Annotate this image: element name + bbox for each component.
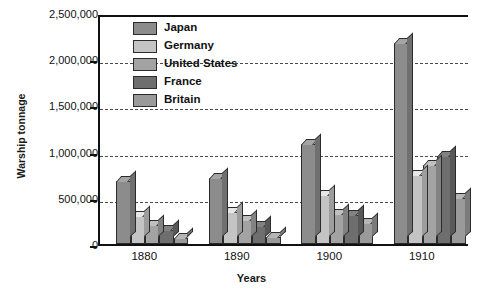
y-tick-label: 1,000,000: [12, 148, 98, 159]
y-tick-mark: [90, 107, 97, 109]
bar-side-face: [422, 164, 428, 237]
x-tick-label-1890: 1890: [187, 250, 287, 262]
legend-swatch: [133, 22, 157, 35]
bar-side-face: [450, 146, 456, 237]
bar-side-face: [187, 227, 193, 237]
y-tick-label: 2,500,000: [12, 9, 98, 20]
x-tick-label-1900: 1900: [279, 250, 379, 262]
bar-side-face: [372, 212, 378, 237]
bar-side-face: [315, 134, 321, 237]
bar-britain-1880: [174, 238, 188, 244]
bar-side-face: [329, 185, 335, 237]
y-tick-mark: [90, 200, 97, 202]
warship-tonnage-bar-chart: Warship tonnage 0500,0001,000,0001,500,0…: [0, 0, 503, 296]
y-tick-label: 0: [12, 240, 98, 251]
legend-swatch: [133, 76, 157, 89]
legend-item-germany: Germany: [133, 38, 238, 54]
bar-side-face: [407, 32, 413, 237]
legend-item-britain: Britain: [133, 92, 238, 108]
legend-label: Britain: [164, 94, 200, 106]
bar-side-face: [465, 187, 471, 237]
y-tick-label: 1,500,000: [12, 101, 98, 112]
chart-legend: JapanGermanyUnited StatesFranceBritain: [133, 20, 238, 108]
bar-side-face: [237, 201, 243, 237]
legend-label: United States: [164, 58, 238, 70]
bar-japan-1900: [301, 144, 315, 244]
legend-label: Japan: [164, 22, 197, 34]
legend-item-france: France: [133, 74, 238, 90]
bar-japan-1880: [116, 181, 130, 244]
y-tick-mark: [90, 246, 97, 248]
y-axis: 0500,0001,000,0001,500,0002,000,0002,500…: [0, 15, 98, 246]
legend-label: France: [164, 76, 202, 88]
bar-side-face: [436, 154, 442, 237]
legend-label: Germany: [164, 40, 214, 52]
legend-item-united-states: United States: [133, 56, 238, 72]
y-tick-mark: [90, 154, 97, 156]
bar-side-face: [130, 171, 136, 237]
y-tick-mark: [90, 61, 97, 63]
bar-japan-1890: [209, 178, 223, 244]
bar-side-face: [222, 168, 228, 237]
bar-side-face: [358, 205, 364, 237]
y-tick-label: 500,000: [12, 194, 98, 205]
bar-side-face: [343, 203, 349, 237]
legend-swatch: [133, 40, 157, 53]
legend-swatch: [133, 94, 157, 107]
bar-side-face: [280, 226, 286, 237]
x-tick-label-1880: 1880: [94, 250, 194, 262]
x-tick-label-1910: 1910: [372, 250, 472, 262]
y-tick-label: 2,000,000: [12, 55, 98, 66]
x-axis-title: Years: [0, 272, 503, 284]
legend-item-japan: Japan: [133, 20, 238, 36]
legend-swatch: [133, 58, 157, 71]
bar-japan-1910: [394, 43, 408, 244]
bar-britain-1890: [266, 237, 280, 244]
